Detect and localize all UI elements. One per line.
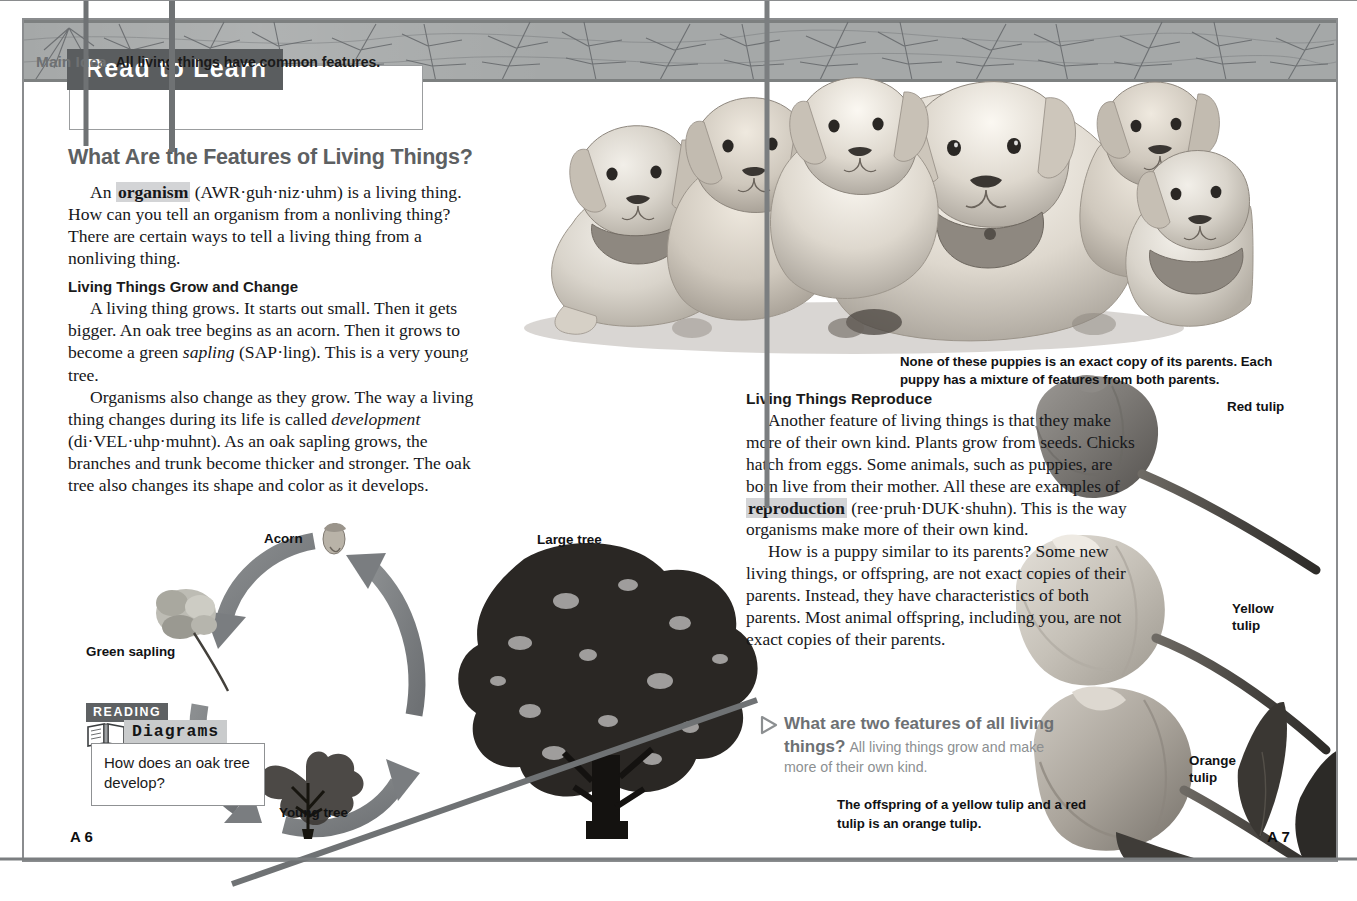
puppies-photo [454,28,1254,358]
paragraph-organism: An organism (AWR·guh·niz·uhm) is a livin… [68,181,488,269]
tulip-label-orange: Orange tulip [1189,752,1236,787]
tulip-label-yellow: Yellow tulip [1232,600,1274,635]
tulip-label-yellow-line1: Yellow [1232,601,1274,616]
question-callout: What are two features of all living thin… [784,713,1074,776]
tulip-label-orange-line2: tulip [1189,770,1217,785]
italic-development: development [331,409,420,429]
main-idea-row: Main Idea All living things have common … [36,53,380,71]
sub-heading-reproduce: Living Things Reproduce [746,390,1146,408]
paragraph-development: Organisms also change as they grow. The … [68,386,488,496]
main-idea-text: All living things have common features. [116,54,381,70]
section-heading: What Are the Features of Living Things? [68,145,488,170]
diagram-label-large-tree: Large tree [537,532,602,547]
large-tree-image [458,543,757,839]
keyword-organism: organism [116,182,190,202]
keyword-reproduction: reproduction [746,498,847,518]
reading-question-box: How does an oak tree develop? [91,743,265,806]
main-idea-label: Main Idea [36,53,107,71]
left-column: What Are the Features of Living Things? … [68,145,488,496]
italic-sapling: sapling [183,342,235,362]
diagram-label-acorn: Acorn [264,531,303,546]
page-number-right: A 7 [1267,828,1290,845]
triangle-arrow-icon [759,715,779,735]
tulip-label-yellow-line2: tulip [1232,618,1260,633]
acorn-image [323,523,346,554]
diagrams-tag: Diagrams [124,720,227,744]
page-number-left: A 6 [70,828,93,845]
paragraph-offspring: How is a puppy similar to its parents? S… [746,541,1146,650]
para1-pre: An [90,182,116,202]
textbook-spread: Read to Learn Main Idea All living thing… [22,18,1338,862]
tulip-label-red: Red tulip [1227,398,1284,415]
puppies-caption: None of these puppies is an exact copy o… [900,353,1300,389]
diagram-label-young-tree: Young tree [279,805,348,820]
diagram-label-green-sapling: Green sapling [86,644,175,659]
right-column: Living Things Reproduce Another feature … [746,390,1146,651]
sub-heading-grow-change: Living Things Grow and Change [68,278,488,295]
rpara1-a: Another feature of living things is that… [746,410,1135,496]
tulip-label-orange-line1: Orange [1189,753,1236,768]
paragraph-growth: A living thing grows. It starts out smal… [68,297,488,385]
para3-b: (di·VEL·uhp·muhnt). As an oak sapling gr… [68,431,471,495]
paragraph-reproduction: Another feature of living things is that… [746,410,1146,541]
tulips-caption: The offspring of a yellow tulip and a re… [837,796,1097,833]
